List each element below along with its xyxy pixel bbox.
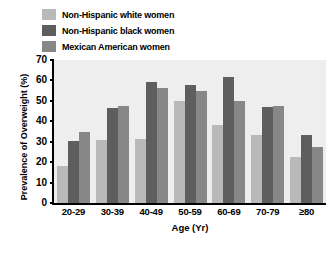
legend-label-series-1: Non-Hispanic black women <box>62 26 174 36</box>
x-tick-label: 40-49 <box>132 206 171 217</box>
bar <box>68 141 79 203</box>
y-axis-title: Prevalence of Overweight (%) <box>19 67 29 207</box>
bar <box>157 88 168 203</box>
chart-figure: Non-Hispanic white women Non-Hispanic bl… <box>0 0 332 253</box>
x-tick-label: ≥80 <box>287 206 326 217</box>
bar <box>135 139 146 203</box>
bar <box>146 82 157 203</box>
bar-group <box>209 60 248 203</box>
bar <box>96 140 107 203</box>
bar-groups <box>54 60 326 203</box>
bar <box>174 101 185 203</box>
y-tick-label: 40 <box>36 115 47 126</box>
chart-legend: Non-Hispanic white women Non-Hispanic bl… <box>42 7 242 55</box>
bar <box>273 106 284 203</box>
x-tick-label: 60-69 <box>209 206 248 217</box>
legend-label-series-0: Non-Hispanic white women <box>62 10 174 20</box>
y-tick-label: 50 <box>36 95 47 106</box>
bar-group <box>171 60 210 203</box>
y-tick-label: 0 <box>41 197 47 208</box>
bar-group <box>248 60 287 203</box>
bar-group <box>132 60 171 203</box>
bar <box>185 85 196 203</box>
bar <box>212 125 223 203</box>
x-tick-label: 30-39 <box>93 206 132 217</box>
legend-swatch-series-2 <box>42 41 56 52</box>
bar <box>312 147 323 203</box>
bar-group <box>54 60 93 203</box>
x-tick-label: 50-59 <box>171 206 210 217</box>
x-axis-title: Age (Yr) <box>54 222 326 233</box>
bar <box>262 107 273 203</box>
bar <box>301 135 312 203</box>
bar-group <box>93 60 132 203</box>
bar <box>234 101 245 203</box>
y-tick-label: 30 <box>36 136 47 147</box>
legend-label-series-2: Mexican American women <box>62 42 170 52</box>
bar <box>223 77 234 203</box>
y-tick-label: 60 <box>36 74 47 85</box>
y-tick-label: 20 <box>36 156 47 167</box>
x-axis-tick-labels: 20-2930-3940-4950-5960-6970-79≥80 <box>54 206 326 217</box>
legend-swatch-series-1 <box>42 25 56 36</box>
bar <box>57 166 68 203</box>
x-tick-label: 70-79 <box>248 206 287 217</box>
legend-item: Non-Hispanic white women <box>42 7 242 22</box>
bar-group <box>287 60 326 203</box>
plot-area <box>52 60 326 205</box>
y-axis: Prevalence of Overweight (%) 01020304050… <box>0 60 54 203</box>
bar <box>251 135 262 203</box>
x-tick-label: 20-29 <box>54 206 93 217</box>
y-tick-label: 10 <box>36 177 47 188</box>
legend-swatch-series-0 <box>42 9 56 20</box>
bar <box>107 108 118 203</box>
bar <box>79 132 90 204</box>
y-tick-label: 70 <box>36 54 47 65</box>
bar <box>196 91 207 203</box>
bar <box>118 106 129 203</box>
legend-item: Non-Hispanic black women <box>42 23 242 38</box>
legend-item: Mexican American women <box>42 39 242 54</box>
bar <box>290 157 301 203</box>
